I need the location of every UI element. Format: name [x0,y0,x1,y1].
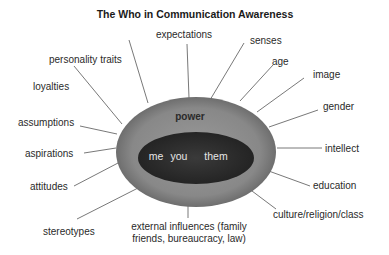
label-loyalties: loyalties [33,81,69,92]
me-label: me [149,150,164,162]
label-attitudes: attitudes [30,181,68,192]
you-label: you [171,150,188,162]
label-gender: gender [323,101,355,112]
power-label: power [175,111,205,122]
diagram-title: The Who in Communication Awareness [97,8,294,20]
label-external-influences-line1: external influences (family [131,221,247,232]
label-senses: senses [250,35,282,46]
label-intellect: intellect [325,143,359,154]
label-aspirations: aspirations [25,148,73,159]
label-culture-religion-class: culture/religion/class [273,209,364,220]
label-image: image [313,69,341,80]
label-expectations: expectations [156,29,212,40]
communication-awareness-diagram: The Who in Communication Awareness power… [0,0,389,255]
them-label: them [204,150,228,162]
label-assumptions: assumptions [18,117,74,128]
label-external-influences-line2: friends, bureaucracy, law) [132,233,246,244]
label-stereotypes: stereotypes [43,226,95,237]
label-education: education [313,180,356,191]
label-age: age [272,56,289,67]
label-personality-traits: personality traits [49,54,122,65]
